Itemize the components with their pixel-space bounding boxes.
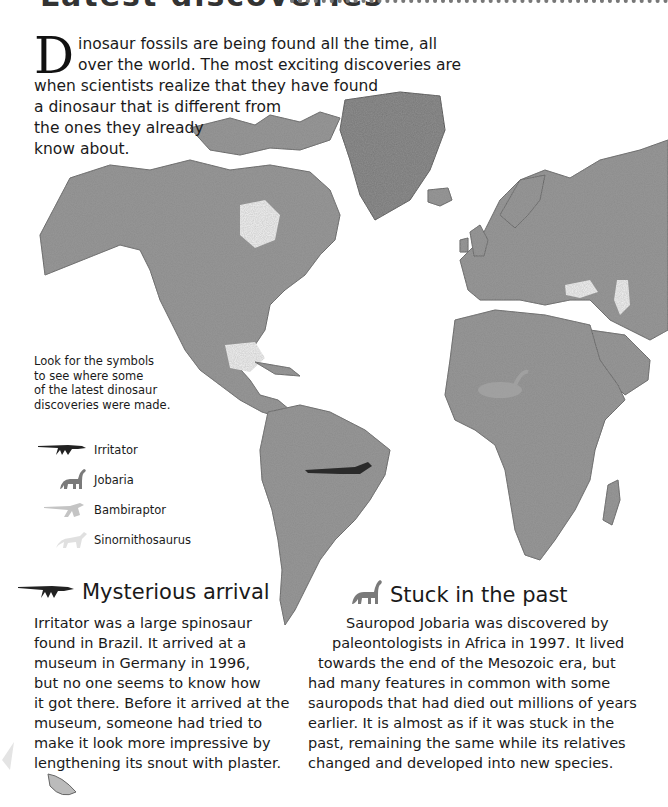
body-line: past, remaining the same while its relat… — [308, 733, 668, 753]
body-line: found in Brazil. It arrived at a — [34, 633, 314, 653]
legend-label: Irritator — [94, 443, 138, 457]
body-line: sauropods that had died out millions of … — [308, 693, 668, 713]
body-line: earlier. It is almost as if it was stuck… — [308, 713, 668, 733]
body-line: Irritator was a large spinosaur — [34, 613, 314, 633]
intro-line: over the world. The most exciting discov… — [34, 55, 394, 76]
legend-note-line: discoveries were made. — [34, 398, 224, 413]
body-line: museum, someone had tried to — [34, 713, 314, 733]
body-line: had many features in common with some — [308, 673, 668, 693]
body-line: changed and developed into new species. — [308, 753, 668, 773]
body-line: it got there. Before it arrived at the — [34, 693, 314, 713]
legend-note-line: to see where some — [34, 369, 224, 384]
legend-label: Sinornithosaurus — [94, 533, 191, 547]
irritator-silhouette-icon — [18, 581, 76, 605]
legend-label: Bambiraptor — [94, 503, 166, 517]
section-heading-mysterious-arrival: Mysterious arrival — [18, 580, 270, 605]
sinornithosaurus-partial-symbol — [2, 742, 14, 770]
body-line: towards the end of the Mesozoic era, but — [308, 653, 668, 673]
section-title: Stuck in the past — [390, 583, 568, 607]
legend-note: Look for the symbols to see where some o… — [34, 354, 224, 412]
legend-item-bambiraptor: Bambiraptor — [34, 495, 191, 525]
body-line: make it look more impressive by — [34, 733, 314, 753]
legend-note-line: of the latest dinosaur — [34, 383, 224, 398]
sinornithosaurus-silhouette-icon — [34, 528, 88, 552]
irritator-silhouette-icon — [34, 438, 88, 462]
body-line: paleontologists in Africa in 1997. It li… — [308, 633, 668, 653]
intro-line: a dinosaur that is different from — [34, 97, 394, 118]
legend-item-irritator: Irritator — [34, 435, 191, 465]
bambiraptor-silhouette-icon — [34, 498, 88, 522]
section-body-mysterious-arrival: Irritator was a large spinosaur found in… — [34, 613, 314, 773]
legend-item-sinornithosaurus: Sinornithosaurus — [34, 525, 191, 555]
intro-line: when scientists realize that they have f… — [34, 76, 394, 97]
jobaria-silhouette-icon — [34, 468, 88, 492]
symbol-legend: Irritator Jobaria Bambiraptor Sinornitho… — [34, 435, 191, 555]
jobaria-silhouette-icon — [350, 578, 384, 613]
intro-line: know about. — [34, 139, 394, 160]
body-line: but no one seems to know how — [34, 673, 314, 693]
body-line: lengthening its snout with plaster. — [34, 753, 314, 773]
intro-line: inosaur fossils are being found all the … — [34, 34, 394, 55]
legend-note-line: Look for the symbols — [34, 354, 224, 369]
body-line: museum in Germany in 1996, — [34, 653, 314, 673]
section-heading-stuck-in-the-past: Stuck in the past — [350, 578, 568, 613]
drop-cap: D — [34, 36, 74, 76]
section-title: Mysterious arrival — [82, 580, 270, 604]
intro-line: the ones they already — [34, 118, 394, 139]
body-line: Sauropod Jobaria was discovered by — [308, 613, 668, 633]
legend-label: Jobaria — [94, 473, 134, 487]
bambiraptor-partial-symbol — [48, 774, 76, 795]
legend-item-jobaria: Jobaria — [34, 465, 191, 495]
section-body-stuck-in-the-past: Sauropod Jobaria was discovered by paleo… — [308, 613, 668, 773]
intro-paragraph: D inosaur fossils are being found all th… — [34, 34, 394, 160]
